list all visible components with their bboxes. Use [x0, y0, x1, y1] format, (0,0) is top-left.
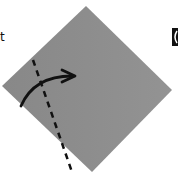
origami-diagram	[0, 0, 178, 176]
paper-square	[2, 6, 172, 172]
